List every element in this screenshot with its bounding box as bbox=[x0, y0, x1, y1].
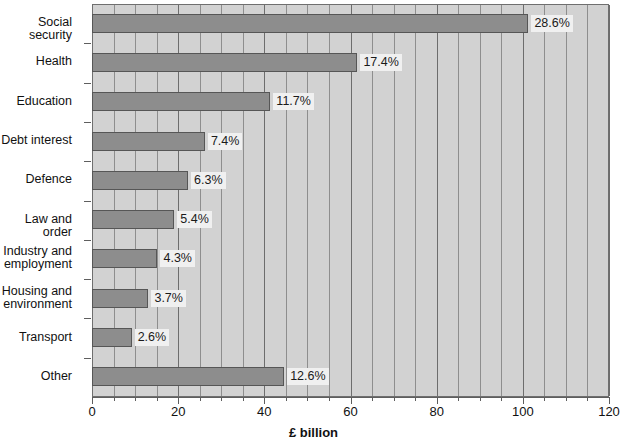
x-axis-minor-tick bbox=[135, 397, 136, 401]
x-axis-minor-tick bbox=[394, 397, 395, 401]
bar-row: 5.4% bbox=[92, 210, 609, 230]
bar bbox=[92, 328, 132, 347]
x-axis-major-tick bbox=[437, 397, 438, 404]
x-axis-major-tick bbox=[178, 397, 179, 404]
bar-row: 7.4% bbox=[92, 132, 609, 152]
x-axis-tick-label: 60 bbox=[343, 404, 357, 419]
bar-chart: 28.6%17.4%11.7%7.4%6.3%5.4%4.3%3.7%2.6%1… bbox=[0, 0, 627, 445]
x-axis-minor-tick bbox=[114, 397, 115, 401]
x-axis-major-tick bbox=[264, 397, 265, 404]
y-axis-tick bbox=[84, 122, 91, 123]
x-axis-tick-label: 20 bbox=[171, 404, 185, 419]
x-axis-title: £ billion bbox=[0, 425, 627, 440]
category-label: Housing and environment bbox=[2, 285, 72, 311]
bar-value-label: 7.4% bbox=[208, 133, 243, 150]
x-axis-major-tick bbox=[523, 397, 524, 404]
x-axis-minor-tick bbox=[307, 397, 308, 401]
category-label: Transport bbox=[19, 331, 72, 344]
bar bbox=[92, 92, 270, 111]
bar-row: 4.3% bbox=[92, 249, 609, 269]
bar-row: 17.4% bbox=[92, 53, 609, 73]
x-axis-minor-tick bbox=[329, 397, 330, 401]
x-axis-minor-tick bbox=[286, 397, 287, 401]
bar-value-label: 28.6% bbox=[531, 15, 572, 32]
category-label: Health bbox=[36, 55, 72, 68]
x-axis-tick-label: 120 bbox=[598, 404, 620, 419]
bar-value-label: 6.3% bbox=[191, 172, 226, 189]
y-axis-tick bbox=[84, 279, 91, 280]
x-axis-major-tick bbox=[92, 397, 93, 404]
bar-row: 2.6% bbox=[92, 328, 609, 348]
category-label: Defence bbox=[25, 173, 72, 186]
y-axis-tick bbox=[84, 161, 91, 162]
category-label: Education bbox=[16, 95, 72, 108]
category-label: Law and order bbox=[0, 213, 72, 239]
x-axis-minor-tick bbox=[480, 397, 481, 401]
x-axis-minor-tick bbox=[243, 397, 244, 401]
x-axis-minor-tick bbox=[157, 397, 158, 401]
y-axis-tick bbox=[84, 318, 91, 319]
bar-value-label: 17.4% bbox=[360, 54, 401, 71]
x-axis-minor-tick bbox=[501, 397, 502, 401]
x-axis-minor-tick bbox=[458, 397, 459, 401]
bar bbox=[92, 14, 528, 33]
x-axis-minor-tick bbox=[544, 397, 545, 401]
category-label: Industry and employment bbox=[3, 245, 72, 271]
bar bbox=[92, 132, 205, 151]
x-axis-tick-label: 100 bbox=[512, 404, 534, 419]
bar-row: 6.3% bbox=[92, 171, 609, 191]
bar-value-label: 12.6% bbox=[287, 368, 328, 385]
bar-row: 3.7% bbox=[92, 289, 609, 309]
bar-row: 12.6% bbox=[92, 367, 609, 387]
bar-row: 28.6% bbox=[92, 14, 609, 34]
bar bbox=[92, 289, 148, 308]
y-axis-tick bbox=[84, 83, 91, 84]
y-axis-tick bbox=[84, 358, 91, 359]
x-axis-minor-tick bbox=[221, 397, 222, 401]
bar bbox=[92, 53, 357, 72]
bar-value-label: 2.6% bbox=[135, 329, 170, 346]
y-axis-tick bbox=[84, 43, 91, 44]
bar-value-label: 3.7% bbox=[151, 290, 186, 307]
gridline bbox=[609, 5, 610, 396]
x-axis-minor-tick bbox=[566, 397, 567, 401]
bar bbox=[92, 210, 174, 229]
y-axis-tick bbox=[84, 240, 91, 241]
x-axis-tick-label: 80 bbox=[429, 404, 443, 419]
x-axis-tick-label: 40 bbox=[257, 404, 271, 419]
x-axis-minor-tick bbox=[372, 397, 373, 401]
bars-layer: 28.6%17.4%11.7%7.4%6.3%5.4%4.3%3.7%2.6%1… bbox=[92, 4, 609, 397]
category-label: Other bbox=[41, 370, 72, 383]
bar-value-label: 11.7% bbox=[273, 93, 314, 110]
category-label: Social security bbox=[0, 16, 72, 42]
bar-value-label: 4.3% bbox=[160, 250, 195, 267]
x-axis-minor-tick bbox=[415, 397, 416, 401]
category-label: Debt interest bbox=[1, 134, 72, 147]
bar-row: 11.7% bbox=[92, 92, 609, 112]
x-axis-major-tick bbox=[351, 397, 352, 404]
x-axis-minor-tick bbox=[587, 397, 588, 401]
y-axis-tick bbox=[84, 201, 91, 202]
x-axis-minor-tick bbox=[200, 397, 201, 401]
x-axis-major-tick bbox=[609, 397, 610, 404]
x-axis-tick-label: 0 bbox=[88, 404, 95, 419]
bar bbox=[92, 367, 284, 386]
bar bbox=[92, 171, 188, 190]
bar-value-label: 5.4% bbox=[177, 211, 212, 228]
bar bbox=[92, 249, 157, 268]
